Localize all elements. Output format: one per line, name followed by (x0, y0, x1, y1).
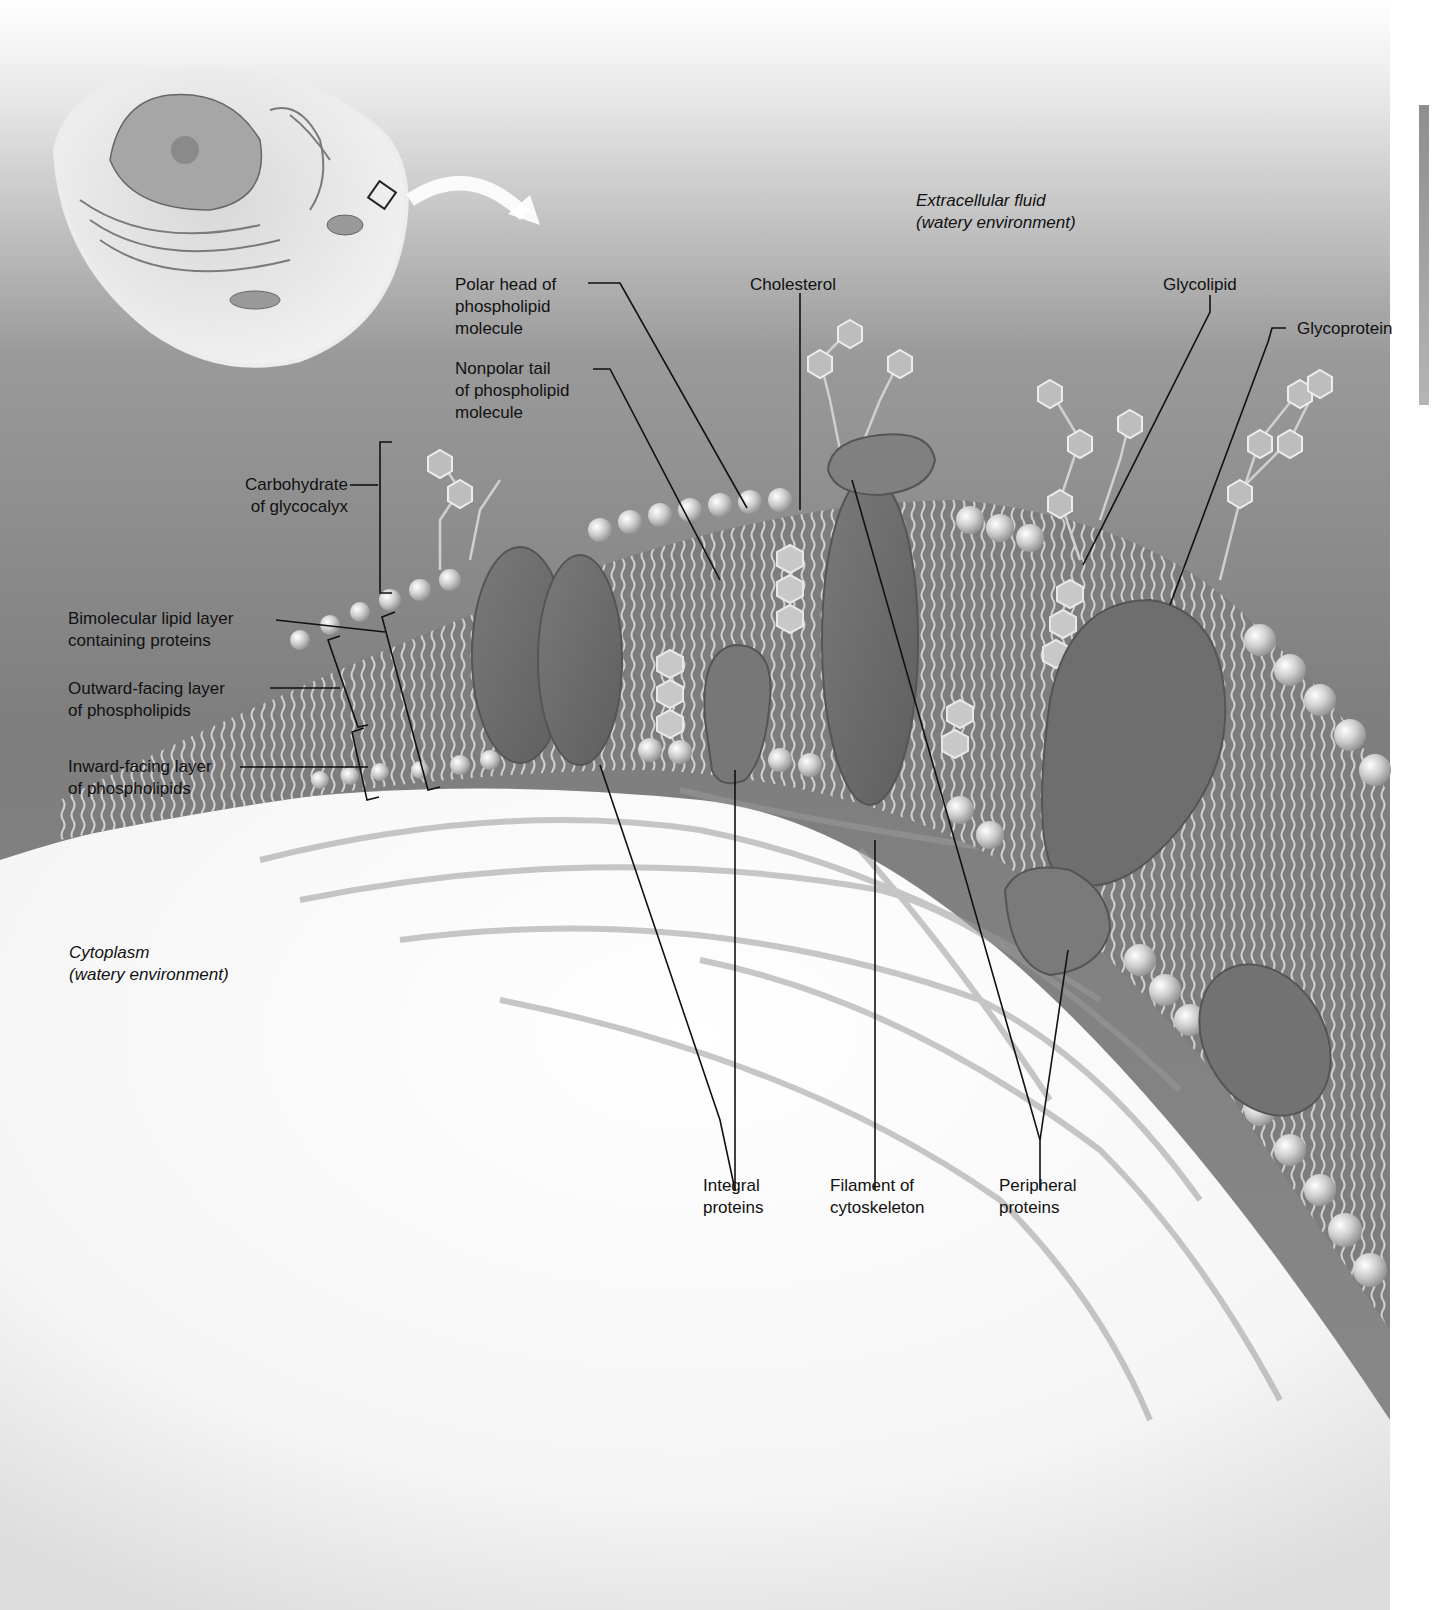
nucleolus (171, 136, 199, 164)
label-inward-facing-layer: Inward-facing layer of phospholipids (68, 756, 212, 800)
diagram-artwork (0, 0, 1455, 1610)
integral-protein-right (538, 555, 622, 765)
label-glycoprotein: Glycoprotein (1297, 318, 1392, 340)
mitochondrion (230, 291, 280, 309)
membrane-diagram: Extracellular fluid (watery environment)… (0, 0, 1455, 1610)
label-cytoplasm: Cytoplasm (watery environment) (69, 942, 229, 986)
label-carbohydrate-glycocalyx: Carbohydrate of glycocalyx (220, 474, 348, 518)
mitochondrion (327, 215, 363, 235)
label-polar-head: Polar head of phospholipid molecule (455, 274, 556, 340)
label-glycolipid: Glycolipid (1163, 274, 1237, 296)
label-cholesterol: Cholesterol (750, 274, 836, 296)
label-peripheral-proteins: Peripheral proteins (999, 1175, 1077, 1219)
page-edge-tab (1419, 105, 1429, 405)
label-outward-facing-layer: Outward-facing layer of phospholipids (68, 678, 225, 722)
label-integral-proteins: Integral proteins (703, 1175, 763, 1219)
label-extracellular-fluid: Extracellular fluid (watery environment) (916, 190, 1076, 234)
label-nonpolar-tail: Nonpolar tail of phospholipid molecule (455, 358, 569, 424)
label-filament-cytoskeleton: Filament of cytoskeleton (830, 1175, 925, 1219)
integral-protein-tall (822, 475, 918, 805)
label-bimolecular-lipid-layer: Bimolecular lipid layer containing prote… (68, 608, 233, 652)
